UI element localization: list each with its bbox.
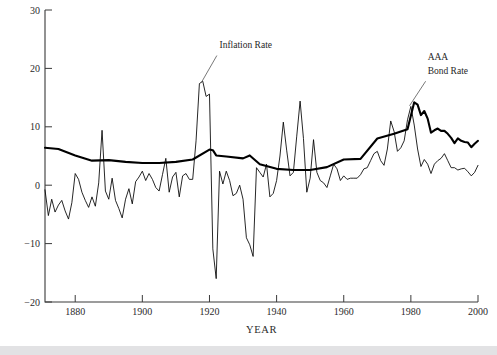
annotation-label: Inflation Rate xyxy=(220,40,273,50)
series-aaa-bond-rate xyxy=(45,102,478,170)
leader-line-aaa xyxy=(410,81,426,106)
y-tick-label: 30 xyxy=(30,5,40,16)
y-tick-label: 0 xyxy=(35,180,40,191)
y-tick-label: 10 xyxy=(30,121,40,132)
leader-line-inflation xyxy=(201,56,216,83)
x-tick-label: 1960 xyxy=(334,306,354,317)
y-tick-label: 20 xyxy=(30,63,40,74)
x-tick-label: 1940 xyxy=(267,306,287,317)
annotation-label: AAA xyxy=(428,52,449,62)
x-tick-label: 2000 xyxy=(468,306,488,317)
inflation-aaa-bond-line-chart: −20−100102030188019001920194019601980200… xyxy=(0,0,497,355)
axis-lines xyxy=(45,10,478,302)
x-axis-title: YEAR xyxy=(246,324,277,335)
x-tick-label: 1920 xyxy=(199,306,219,317)
x-tick-label: 1880 xyxy=(65,306,85,317)
chart-figure: −20−100102030188019001920194019601980200… xyxy=(0,0,497,355)
y-tick-label: −10 xyxy=(24,238,40,249)
bottom-band xyxy=(0,346,497,355)
x-tick-label: 1900 xyxy=(132,306,152,317)
annotation-label: Bond Rate xyxy=(428,66,468,76)
y-tick-label: −20 xyxy=(24,297,40,308)
x-tick-label: 1980 xyxy=(401,306,421,317)
